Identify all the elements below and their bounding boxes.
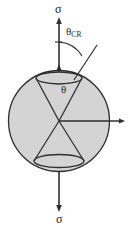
theta-inner-label: θ (61, 84, 66, 95)
sigma-bottom-label: σ (56, 213, 62, 225)
theta-cr-arc (59, 42, 82, 56)
figure-container: σ θCR θ σ (0, 0, 132, 234)
sigma-top-label: σ (55, 3, 61, 15)
axis-upper-tick-arrowhead-icon (57, 64, 62, 70)
bottom-stress-arrowhead-icon (56, 205, 62, 212)
top-stress-arrowhead-icon (56, 17, 62, 24)
horizontal-axis-arrowhead-icon (119, 119, 125, 124)
theta-critical-label: θCR (66, 26, 82, 37)
theta-critical-subscript: CR (71, 30, 81, 39)
